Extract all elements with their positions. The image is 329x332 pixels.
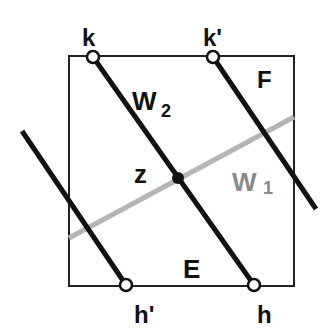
diagram-svg: k k' F W 2 z W 1 E h' h: [0, 0, 329, 332]
line-w2: [93, 57, 254, 285]
point-k: [87, 51, 99, 63]
label-F: F: [257, 66, 272, 93]
point-k-prime: [207, 51, 219, 63]
label-W1-sub: 1: [263, 178, 273, 198]
label-k-prime: k': [203, 24, 222, 51]
label-h-prime: h': [134, 301, 154, 328]
label-W2-sub: 2: [161, 101, 171, 121]
label-E: E: [183, 254, 200, 284]
line-left: [22, 131, 126, 285]
label-z: z: [134, 159, 147, 189]
label-W2: W: [132, 86, 157, 116]
label-k: k: [82, 24, 96, 51]
label-W1: W: [232, 167, 257, 197]
point-h-prime: [120, 279, 132, 291]
point-z: [172, 172, 184, 184]
diagram-canvas: k k' F W 2 z W 1 E h' h: [0, 0, 329, 332]
point-h: [248, 279, 260, 291]
label-h: h: [257, 301, 272, 328]
